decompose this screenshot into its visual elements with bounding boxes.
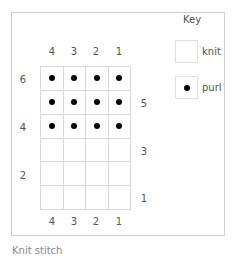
- purl-dot-icon: [49, 99, 55, 105]
- purl-stitch-cell: [109, 115, 132, 139]
- knit-stitch-cell: [41, 186, 64, 210]
- purl-symbol-icon: [175, 76, 198, 99]
- knit-stitch-cell: [64, 162, 87, 186]
- purl-stitch-cell: [86, 67, 109, 91]
- row-label-right: 5: [137, 98, 151, 110]
- purl-dot-icon: [94, 75, 100, 81]
- purl-dot-icon: [116, 99, 122, 105]
- knit-stitch-cell: [109, 139, 132, 163]
- row-label-left: 2: [16, 170, 30, 182]
- col-label-bottom: 3: [67, 216, 81, 228]
- purl-dot-icon: [71, 75, 77, 81]
- knit-stitch-cell: [41, 139, 64, 163]
- col-label-bottom: 2: [89, 216, 103, 228]
- purl-stitch-cell: [64, 115, 87, 139]
- purl-dot-icon: [71, 99, 77, 105]
- purl-stitch-cell: [64, 67, 87, 91]
- purl-stitch-cell: [86, 91, 109, 115]
- key-title: Key: [183, 14, 201, 25]
- stitch-grid: [40, 66, 131, 210]
- purl-dot-icon: [94, 123, 100, 129]
- row-label-left: 4: [16, 122, 30, 134]
- purl-dot-icon: [49, 75, 55, 81]
- knit-stitch-cell: [86, 186, 109, 210]
- row-label-left: 6: [16, 74, 30, 86]
- purl-stitch-cell: [64, 91, 87, 115]
- row-label-right: 3: [137, 146, 151, 158]
- purl-dot-icon: [94, 99, 100, 105]
- purl-dot-icon: [71, 123, 77, 129]
- purl-dot-icon: [116, 75, 122, 81]
- purl-dot-icon: [116, 123, 122, 129]
- knit-stitch-cell: [64, 139, 87, 163]
- purl-dot-icon: [184, 85, 190, 91]
- row-label-right: 1: [137, 193, 151, 205]
- col-label-top: 3: [67, 46, 81, 58]
- knit-symbol-icon: [175, 40, 198, 63]
- col-label-bottom: 4: [45, 216, 59, 228]
- knit-stitch-cell: [64, 186, 87, 210]
- col-label-top: 1: [112, 46, 126, 58]
- purl-dot-icon: [49, 123, 55, 129]
- col-label-bottom: 1: [112, 216, 126, 228]
- knit-stitch-cell: [86, 162, 109, 186]
- knit-stitch-cell: [86, 139, 109, 163]
- col-label-top: 2: [89, 46, 103, 58]
- purl-stitch-cell: [41, 67, 64, 91]
- col-label-top: 4: [45, 46, 59, 58]
- purl-stitch-cell: [41, 115, 64, 139]
- knit-stitch-cell: [109, 162, 132, 186]
- purl-stitch-cell: [86, 115, 109, 139]
- knit-stitch-cell: [41, 162, 64, 186]
- purl-stitch-cell: [41, 91, 64, 115]
- caption: Knit stitch: [12, 245, 62, 256]
- knit-stitch-cell: [109, 186, 132, 210]
- key-label-purl: purl: [202, 82, 222, 93]
- purl-stitch-cell: [109, 67, 132, 91]
- purl-stitch-cell: [109, 91, 132, 115]
- key-label-knit: knit: [202, 46, 221, 57]
